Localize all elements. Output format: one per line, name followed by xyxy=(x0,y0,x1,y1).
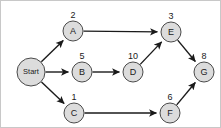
node-label-e: E xyxy=(168,27,174,37)
edge-d-e xyxy=(140,42,161,65)
node-label-f: F xyxy=(167,108,173,118)
node-b[interactable]: B5 xyxy=(72,51,92,82)
node-c[interactable]: C1 xyxy=(64,92,84,123)
node-label-g: G xyxy=(200,67,207,77)
edge-e-g xyxy=(178,40,196,61)
node-weight-d: 10 xyxy=(128,51,138,61)
node-a[interactable]: A2 xyxy=(63,10,83,41)
node-start[interactable]: Start xyxy=(17,58,45,86)
node-d[interactable]: D10 xyxy=(123,51,143,82)
node-label-b: B xyxy=(79,67,85,77)
diagram-canvas: StartA2B5C1D10E3F6G8 xyxy=(0,0,221,128)
graph-svg: StartA2B5C1D10E3F6G8 xyxy=(1,1,221,128)
node-e[interactable]: E3 xyxy=(161,11,181,42)
node-weight-a: 2 xyxy=(70,10,75,20)
node-label-c: C xyxy=(71,108,78,118)
edge-f-g xyxy=(177,82,196,104)
node-weight-f: 6 xyxy=(167,92,172,102)
node-weight-b: 5 xyxy=(79,51,84,61)
node-weight-c: 1 xyxy=(71,92,76,102)
node-label-start: Start xyxy=(23,67,40,76)
node-label-d: D xyxy=(130,67,137,77)
node-weight-g: 8 xyxy=(201,51,206,61)
edge-start-c xyxy=(41,82,64,104)
node-label-a: A xyxy=(70,26,76,36)
node-g[interactable]: G8 xyxy=(194,51,214,82)
edge-start-a xyxy=(41,41,63,62)
node-f[interactable]: F6 xyxy=(160,92,180,123)
node-weight-e: 3 xyxy=(168,11,173,21)
edge-a-e xyxy=(84,31,158,32)
nodes-layer: StartA2B5C1D10E3F6G8 xyxy=(17,10,214,123)
